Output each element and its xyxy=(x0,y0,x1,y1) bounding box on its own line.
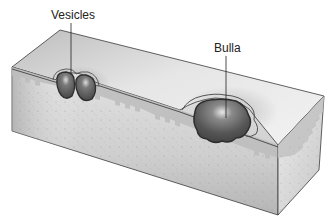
label-bulla: Bulla xyxy=(214,41,241,55)
label-vesicles: Vesicles xyxy=(51,8,95,22)
skin-diagram: Vesicles Bulla xyxy=(0,0,332,224)
bulla-body xyxy=(194,99,251,142)
